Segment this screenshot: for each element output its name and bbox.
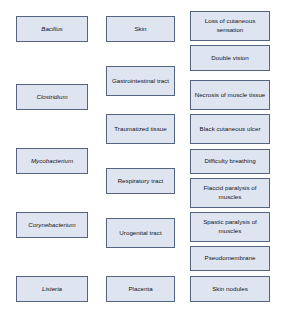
- symptom-box-black-cutaneous-ulcer[interactable]: Black cutaneous ulcer: [190, 114, 270, 144]
- portal-box-placenta[interactable]: Placenta: [106, 276, 175, 302]
- portal-box-respiratory-tract[interactable]: Respiratory tract: [106, 168, 175, 194]
- symptom-box-necrosis-of-muscle-tissue[interactable]: Necrosis of muscle tissue: [190, 80, 270, 110]
- genus-label: Clostridium: [19, 93, 85, 102]
- symptom-box-loss-of-cutaneous-sensation[interactable]: Loss of cutaneous sensation: [190, 11, 270, 41]
- portal-label: Placenta: [109, 285, 172, 294]
- symptom-label: Necrosis of muscle tissue: [193, 91, 267, 100]
- portal-box-skin[interactable]: Skin: [106, 16, 175, 42]
- genus-label: Corynebacterium: [19, 221, 85, 230]
- symptom-label: Loss of cutaneous sensation: [193, 17, 267, 35]
- symptom-label: Skin nodules: [193, 285, 267, 294]
- genus-box-bacillus[interactable]: Bacillus: [16, 16, 88, 42]
- symptom-label: Double vision: [193, 54, 267, 63]
- portal-label: Urogenital tract: [109, 229, 172, 238]
- symptom-box-spastic-paralysis-of-muscles[interactable]: Spastic paralysis of muscles: [190, 212, 270, 242]
- portal-label: Gastrointestinal tract: [109, 77, 172, 86]
- genus-label: Bacillus: [19, 25, 85, 34]
- symptom-box-flaccid-paralysis-of-muscles[interactable]: Flaccid paralysis of muscles: [190, 178, 270, 208]
- symptom-label: Spastic paralysis of muscles: [193, 218, 267, 236]
- genus-box-mycobacterium[interactable]: Mycobacterium: [16, 148, 88, 174]
- portal-box-gastrointestinal-tract[interactable]: Gastrointestinal tract: [106, 66, 175, 96]
- genus-box-listeria[interactable]: Listeria: [16, 276, 88, 302]
- symptom-label: Pseudomembrane: [193, 254, 267, 263]
- portal-box-urogenital-tract[interactable]: Urogenital tract: [106, 218, 175, 248]
- portal-box-traumatized-tissue[interactable]: Traumatized tissue: [106, 114, 175, 144]
- symptom-label: Flaccid paralysis of muscles: [193, 184, 267, 202]
- genus-box-clostridium[interactable]: Clostridium: [16, 84, 88, 110]
- symptom-box-difficulty-breathing[interactable]: Difficulty breathing: [190, 149, 270, 174]
- symptom-box-double-vision[interactable]: Double vision: [190, 45, 270, 71]
- symptom-label: Difficulty breathing: [193, 157, 267, 166]
- genus-label: Listeria: [19, 285, 85, 294]
- portal-label: Respiratory tract: [109, 177, 172, 186]
- symptom-box-skin-nodules[interactable]: Skin nodules: [190, 276, 270, 302]
- symptom-label: Black cutaneous ulcer: [193, 125, 267, 134]
- portal-label: Traumatized tissue: [109, 125, 172, 134]
- genus-label: Mycobacterium: [19, 157, 85, 166]
- matching-diagram: Bacillus Clostridium Mycobacterium Coryn…: [0, 0, 284, 317]
- symptom-box-pseudomembrane[interactable]: Pseudomembrane: [190, 246, 270, 271]
- portal-label: Skin: [109, 25, 172, 34]
- genus-box-corynebacterium[interactable]: Corynebacterium: [16, 212, 88, 238]
